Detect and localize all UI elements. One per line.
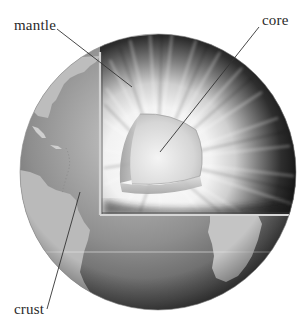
label-core: core xyxy=(262,13,289,28)
earth-layers-diagram xyxy=(0,0,302,327)
core xyxy=(120,114,202,194)
cutaway xyxy=(96,20,302,220)
label-mantle: mantle xyxy=(14,18,56,33)
label-crust: crust xyxy=(14,302,44,317)
